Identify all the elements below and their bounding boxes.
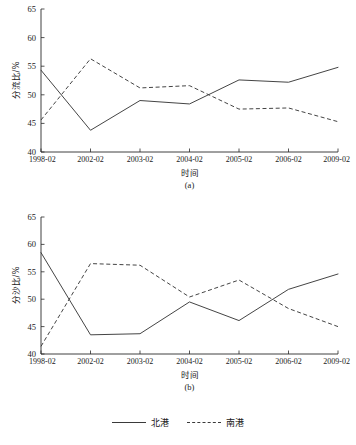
x-tick-label: 2006-02 [275, 155, 302, 164]
y-tick-label: 45 [28, 322, 37, 332]
y-tick-label: 55 [28, 267, 37, 277]
chart-axes [41, 217, 338, 354]
x-tick-label: 2002-02 [77, 155, 104, 164]
legend-item-1: 南港 [187, 419, 244, 428]
legend-label-1: 南港 [226, 419, 244, 428]
y-tick-label: 60 [28, 33, 37, 43]
chart-a-svg: 4045505560651998-022002-022003-022004-02… [0, 0, 356, 210]
x-axis-title: 时间 [181, 370, 199, 380]
figure-container: 4045505560651998-022002-022003-022004-02… [0, 0, 356, 445]
series-line-南港 [41, 264, 338, 347]
legend-item-0: 北港 [112, 419, 169, 428]
x-tick-label: 2004-02 [176, 155, 203, 164]
x-tick-label: 2002-02 [77, 357, 104, 366]
x-tick-label: 2005-02 [226, 357, 253, 366]
series-line-北港 [41, 67, 338, 130]
y-tick-label: 50 [28, 294, 37, 304]
legend-swatch-solid-icon [112, 422, 146, 424]
x-tick-label: 1998-02 [29, 155, 56, 164]
y-tick-label: 65 [28, 212, 37, 222]
series-line-北港 [41, 253, 338, 335]
legend-swatch-dashed-icon [187, 422, 221, 424]
legend-label-0: 北港 [151, 419, 169, 428]
y-tick-label: 45 [28, 118, 37, 128]
x-tick-label: 2006-02 [275, 357, 302, 366]
chart-b-svg: 4045505560651998-022002-022003-022004-02… [0, 208, 356, 408]
y-tick-label: 65 [28, 4, 37, 14]
x-tick-label: 2004-02 [176, 357, 203, 366]
x-tick-label: 2003-02 [127, 155, 154, 164]
y-axis-title: 分沙比/% [11, 267, 21, 305]
x-tick-label: 1998-02 [29, 357, 56, 366]
panel-label: (b) [185, 382, 195, 392]
series-line-南港 [41, 59, 338, 122]
chart-legend: 北港 南港 [0, 408, 356, 438]
y-tick-label: 55 [28, 61, 37, 71]
x-axis-title: 时间 [181, 168, 199, 178]
chart-panel-b: 4045505560651998-022002-022003-022004-02… [0, 208, 356, 408]
chart-panel-a: 4045505560651998-022002-022003-022004-02… [0, 0, 356, 210]
panel-label: (a) [185, 180, 195, 190]
y-axis-title: 分流比/% [11, 62, 21, 100]
x-tick-label: 2009-02 [323, 357, 350, 366]
y-tick-label: 50 [28, 90, 37, 100]
x-tick-label: 2009-02 [323, 155, 350, 164]
x-tick-label: 2005-02 [226, 155, 253, 164]
y-tick-label: 60 [28, 239, 37, 249]
x-tick-label: 2003-02 [127, 357, 154, 366]
